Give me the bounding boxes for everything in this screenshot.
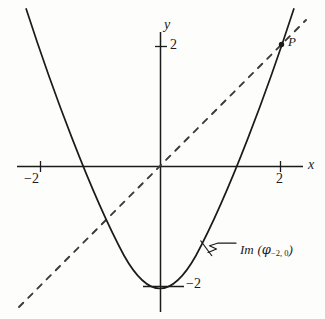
curve-annotation-subscript: −2, 0 (271, 248, 289, 258)
curve-annotation-close-paren: ) (288, 242, 292, 257)
point-p-label: P (288, 35, 296, 48)
plot-svg (0, 0, 325, 319)
curve-annotation-prefix: Im (240, 242, 254, 257)
x-tick-label-2: 2 (276, 172, 283, 186)
x-axis-label: x (308, 158, 314, 172)
callout-leader-line (201, 241, 213, 257)
curve-annotation-symbol: φ (262, 242, 271, 257)
callout-zigzag-icon (208, 243, 236, 252)
figure-container: y x 2 2 −2 −2 P Im (φ−2, 0) (0, 0, 325, 319)
curve-annotation-label: Im (φ−2, 0) (240, 243, 293, 258)
y-tick-label-2: 2 (170, 38, 177, 52)
identity-line (19, 20, 306, 307)
x-tick-label-minus-2: −2 (24, 172, 39, 186)
y-tick-label-minus-2: −2 (186, 277, 201, 291)
point-p-marker (279, 42, 284, 47)
y-axis-label: y (164, 18, 170, 32)
